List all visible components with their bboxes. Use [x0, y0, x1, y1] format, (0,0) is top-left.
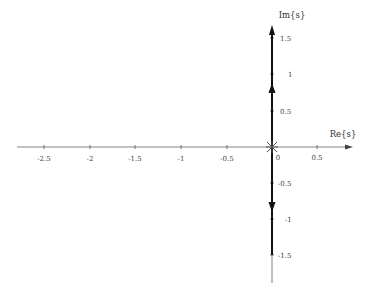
x-tick-label: -1: [178, 155, 185, 163]
x-axis: -2.5 -2 -1.5 -1 -0.5 0 0.5 Re{s}: [17, 129, 356, 163]
y-tick-label: -0.5: [278, 180, 292, 188]
y-tick-label: 1: [288, 71, 292, 79]
x-tick-label: -0.5: [220, 155, 234, 163]
x-tick-label: -2: [87, 155, 94, 163]
y-axis-label: Im{s}: [279, 10, 306, 20]
root-locus-plot: -2.5 -2 -1.5 -1 -0.5 0 0.5 Re{s} 1.5 1 0…: [0, 0, 369, 293]
y-tick-label: -1: [285, 216, 292, 224]
y-tick-label: 1.5: [280, 35, 291, 43]
upper-branch-end-arrow-icon: [269, 25, 275, 35]
y-tick-label: -1.5: [278, 252, 292, 260]
x-axis-label: Re{s}: [330, 129, 357, 139]
x-tick-label: 0.5: [311, 154, 322, 162]
locus-branches: [269, 25, 276, 255]
lower-direction-arrow-icon: [269, 202, 276, 212]
pole-marker-icon: [266, 141, 278, 153]
upper-direction-arrow-icon: [269, 83, 276, 93]
x-tick-label: 0: [276, 154, 280, 162]
y-tick-label: 0.5: [280, 108, 291, 116]
x-tick-label: -1.5: [128, 155, 142, 163]
x-tick-label: -2.5: [37, 155, 51, 163]
x-axis-arrow-icon: [345, 145, 353, 150]
